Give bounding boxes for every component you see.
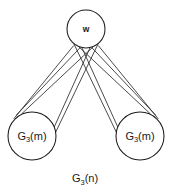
edge-w-to-right-3 xyxy=(79,47,151,114)
left-label-suffix: (m) xyxy=(30,130,47,142)
node-label-w: w xyxy=(82,24,90,34)
node-label-left-subgraph: G3(m) xyxy=(17,130,46,144)
figure-caption: G3(n) xyxy=(72,172,98,187)
right-label-base: G xyxy=(125,130,134,142)
caption-base: G xyxy=(72,172,81,184)
left-label-base: G xyxy=(17,130,26,142)
node-label-right-subgraph: G3(m) xyxy=(125,130,154,144)
graph-diagram: w G3(m) G3(m) G3(n) xyxy=(0,0,170,195)
right-label-suffix: (m) xyxy=(138,130,155,142)
caption-suffix: (n) xyxy=(85,172,98,184)
edge-w-to-left-3 xyxy=(22,47,94,114)
edge-w-to-right-2 xyxy=(92,48,156,115)
figure-container: w G3(m) G3(m) G3(n) xyxy=(0,0,170,195)
edge-w-to-left-2 xyxy=(17,48,81,115)
